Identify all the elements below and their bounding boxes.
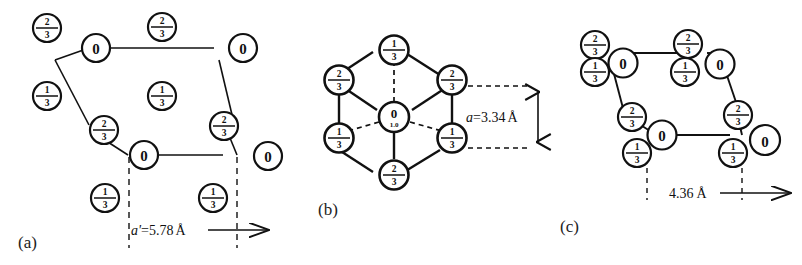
atom-b-center-value: 0 [391,106,398,121]
atom-b-lower-left[interactable]: 1 3 [325,124,354,153]
panel-b: a=3.34Å 1 3 2 3 2 3 [318,36,538,220]
atom-a-7-denominator: 3 [102,132,107,142]
atom-a-5[interactable]: 1 3 [33,82,61,110]
atom-c-7-numerator: 2 [630,106,635,116]
atom-c-4-value: 0 [716,57,724,73]
atom-c-1-numerator: 2 [593,34,598,44]
panel-c: 4.36Å 2 3 2 3 0 [560,30,790,236]
atom-b-bottom-denominator: 3 [392,177,397,187]
atom-b-bottom-numerator: 2 [392,164,397,174]
atom-c-9-value: 0 [658,128,666,144]
atom-c-7[interactable]: 2 3 [618,103,646,131]
atom-a-3-value: 0 [92,41,100,57]
atom-b-bottom[interactable]: 2 3 [380,161,409,190]
atom-a-7-numerator: 2 [102,119,107,129]
panel-c-dimension-guides [647,168,742,200]
atom-b-top[interactable]: 1 3 [380,36,409,65]
panel-b-dim-symbol: a [466,110,473,125]
panel-c-label: (c) [560,217,579,236]
atom-b-center[interactable]: 0 1.0 [379,102,409,132]
atom-a-8-denominator: 3 [222,128,227,138]
atom-b-upper-right-numerator: 2 [450,69,455,79]
atom-b-lower-right[interactable]: 1 3 [438,124,467,153]
atom-c-6-numerator: 1 [683,61,688,71]
atom-c-1-denominator: 3 [593,47,598,57]
atom-b-upper-left-denominator: 3 [337,82,342,92]
atom-a-1-numerator: 2 [45,17,50,27]
atom-a-8-numerator: 2 [222,115,227,125]
atom-c-3[interactable]: 0 [609,49,638,78]
atom-b-lower-right-denominator: 3 [450,140,455,150]
figure-canvas: a'=5.78Å 2 3 2 3 0 [0,0,802,265]
atom-c-7-denominator: 3 [630,119,635,129]
panel-c-dim-unit: Å [697,186,708,201]
panel-b-dim-value: =3.34 [473,110,505,125]
atom-c-3-value: 0 [619,56,627,72]
panel-c-dimension-label: 4.36Å [669,186,708,201]
atom-b-center-subvalue: 1.0 [390,121,399,129]
atom-b-top-numerator: 1 [392,39,397,49]
atom-c-2-denominator: 3 [686,46,691,56]
atom-a-6-numerator: 1 [160,85,165,95]
atom-c-8-denominator: 3 [736,117,741,127]
atom-a-6[interactable]: 1 3 [148,82,176,110]
atom-c-2-numerator: 2 [686,33,691,43]
atom-a-12-numerator: 1 [211,187,216,197]
atom-a-11-denominator: 3 [103,200,108,210]
panel-a-dim-value: =5.78 [141,223,173,238]
atom-c-6[interactable]: 1 3 [671,58,699,86]
atom-c-6-denominator: 3 [683,74,688,84]
atom-c-12-denominator: 3 [731,155,736,165]
atom-a-3[interactable]: 0 [82,34,110,62]
atom-c-5-denominator: 3 [593,74,598,84]
atom-a-2-denominator: 3 [160,29,165,39]
panel-b-atoms: 1 3 2 3 2 3 0 1.0 [325,36,467,190]
atom-a-5-numerator: 1 [45,85,50,95]
atom-b-upper-right[interactable]: 2 3 [438,66,467,95]
atom-c-1[interactable]: 2 3 [581,31,609,59]
atom-c-11[interactable]: 1 3 [623,139,651,167]
atom-a-6-denominator: 3 [160,98,165,108]
atom-a-1[interactable]: 2 3 [33,14,61,42]
panel-a: a'=5.78Å 2 3 2 3 0 [18,13,282,252]
atom-a-9-value: 0 [140,148,148,164]
panel-c-dim-value: 4.36 [669,186,694,201]
atom-a-1-denominator: 3 [45,30,50,40]
atom-b-lower-left-denominator: 3 [337,140,342,150]
atom-b-top-denominator: 3 [392,52,397,62]
atom-a-10-value: 0 [264,149,272,165]
atom-b-upper-left-numerator: 2 [337,69,342,79]
panel-a-cell-outline [55,48,237,155]
atom-c-9[interactable]: 0 [648,121,677,150]
atom-c-10-value: 0 [761,134,769,150]
atom-a-11-numerator: 1 [103,187,108,197]
atom-a-10[interactable]: 0 [254,142,282,170]
atom-c-2[interactable]: 2 3 [674,30,702,58]
panel-b-dim-unit: Å [507,110,518,125]
atom-c-10[interactable]: 0 [750,125,780,155]
atom-b-lower-left-numerator: 1 [337,127,342,137]
atom-b-upper-right-denominator: 3 [450,82,455,92]
atom-a-4[interactable]: 0 [229,34,257,62]
atom-c-8[interactable]: 2 3 [724,101,752,129]
atom-c-12-numerator: 1 [731,142,736,152]
atom-b-upper-left[interactable]: 2 3 [325,66,354,95]
atom-a-12-denominator: 3 [211,200,216,210]
panel-b-dimension-label: a=3.34Å [466,110,518,125]
atom-c-4[interactable]: 0 [706,50,735,79]
atom-a-9[interactable]: 0 [130,141,158,169]
atom-b-lower-right-numerator: 1 [450,127,455,137]
atom-a-7[interactable]: 2 3 [90,116,118,144]
atom-a-11[interactable]: 1 3 [91,184,119,212]
atom-c-5[interactable]: 1 3 [581,58,609,86]
atom-c-11-denominator: 3 [635,155,640,165]
panel-a-dim-unit: Å [175,223,186,238]
atom-a-2[interactable]: 2 3 [148,13,176,41]
atom-a-12[interactable]: 1 3 [199,184,227,212]
atom-a-8[interactable]: 2 3 [210,112,238,140]
atom-c-5-numerator: 1 [593,61,598,71]
atom-c-12[interactable]: 1 3 [719,139,747,167]
atom-c-8-numerator: 2 [736,104,741,114]
panel-b-label: (b) [318,200,338,219]
atom-a-4-value: 0 [239,41,247,57]
